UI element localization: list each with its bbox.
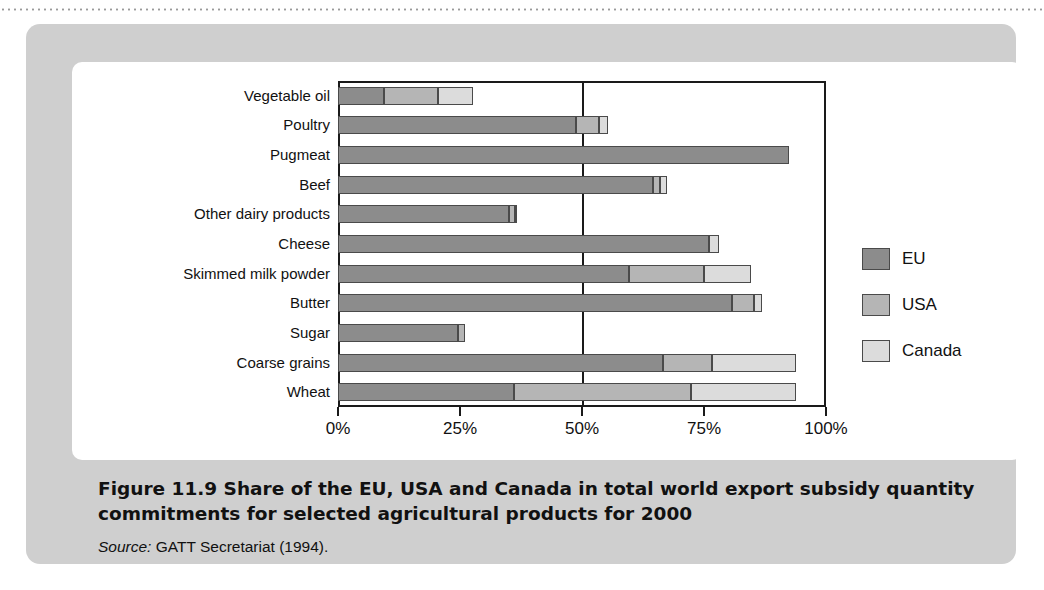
category-label: Pugmeat — [270, 146, 330, 164]
bar-segment-eu — [338, 146, 789, 164]
bar-segment-usa — [458, 324, 465, 342]
bar-row — [338, 294, 762, 312]
bar-row — [338, 265, 751, 283]
bar-segment-canada — [660, 176, 667, 194]
x-tick — [459, 407, 461, 416]
x-tick — [703, 407, 705, 416]
x-tick — [825, 407, 827, 416]
bar-segment-usa — [732, 294, 754, 312]
legend-label: USA — [902, 295, 937, 315]
page-top-dotted-rule — [0, 8, 1044, 11]
bar-segment-usa — [514, 383, 691, 401]
legend-item-usa: USA — [862, 290, 962, 320]
category-label: Sugar — [290, 324, 330, 342]
bar-segment-canada — [515, 205, 517, 223]
legend-swatch-eu — [862, 248, 890, 270]
bar-segment-canada — [599, 116, 608, 134]
category-label: Other dairy products — [194, 205, 330, 223]
source-text: GATT Secretariat (1994). — [151, 538, 328, 555]
bar-segment-eu — [338, 383, 514, 401]
bar-row — [338, 116, 608, 134]
category-label-column: Vegetable oilPoultryPugmeatBeefOther dai… — [72, 81, 330, 407]
category-label: Beef — [299, 176, 330, 194]
bar-row — [338, 235, 719, 253]
x-tick-label: 100% — [804, 419, 847, 439]
x-tick-label: 0% — [326, 419, 351, 439]
bar-segment-eu — [338, 354, 663, 372]
bar-segment-usa — [384, 87, 437, 105]
bar-segment-eu — [338, 324, 458, 342]
bar-segment-eu — [338, 265, 629, 283]
bar-segment-eu — [338, 176, 653, 194]
legend-swatch-usa — [862, 294, 890, 316]
x-tick — [581, 407, 583, 416]
x-tick — [337, 407, 339, 416]
x-tick-label: 50% — [565, 419, 599, 439]
category-label: Coarse grains — [237, 354, 330, 372]
bar-row — [338, 176, 667, 194]
category-label: Butter — [290, 294, 330, 312]
bar-segment-canada — [691, 383, 796, 401]
bar-row — [338, 324, 465, 342]
bar-segment-eu — [338, 116, 576, 134]
caption-source: Source: GATT Secretariat (1994). — [98, 538, 998, 556]
caption-title: Figure 11.9 Share of the EU, USA and Can… — [98, 476, 978, 526]
bar-segment-canada — [438, 87, 474, 105]
bar-row — [338, 205, 517, 223]
category-label: Vegetable oil — [244, 87, 330, 105]
bar-segment-canada — [709, 235, 719, 253]
legend-item-canada: Canada — [862, 336, 962, 366]
bar-segment-eu — [338, 294, 732, 312]
bar-segment-eu — [338, 205, 509, 223]
x-tick-label: 75% — [687, 419, 721, 439]
figure-page: Vegetable oilPoultryPugmeatBeefOther dai… — [0, 0, 1044, 590]
legend-label: EU — [902, 249, 926, 269]
legend-label: Canada — [902, 341, 962, 361]
category-label: Cheese — [278, 235, 330, 253]
legend-swatch-canada — [862, 340, 890, 362]
bar-row — [338, 383, 796, 401]
bar-segment-usa — [663, 354, 712, 372]
bar-segment-eu — [338, 235, 709, 253]
chart-legend: EUUSACanada — [862, 244, 962, 382]
category-label: Wheat — [287, 383, 330, 401]
source-label: Source: — [98, 538, 151, 555]
bar-segment-usa — [576, 116, 599, 134]
x-tick-label: 25% — [443, 419, 477, 439]
bar-segment-usa — [653, 176, 660, 194]
bar-row — [338, 354, 796, 372]
bar-segment-eu — [338, 87, 384, 105]
bar-row — [338, 87, 473, 105]
legend-item-eu: EU — [862, 244, 962, 274]
bar-row — [338, 146, 789, 164]
bar-chart: Vegetable oilPoultryPugmeatBeefOther dai… — [72, 62, 1022, 460]
figure-caption: Figure 11.9 Share of the EU, USA and Can… — [98, 476, 998, 556]
category-label: Poultry — [283, 116, 330, 134]
category-label: Skimmed milk powder — [183, 265, 330, 283]
chart-card: Vegetable oilPoultryPugmeatBeefOther dai… — [72, 62, 1022, 460]
plot-area: 0%25%50%75%100% — [338, 81, 826, 407]
bar-segment-usa — [629, 265, 704, 283]
bar-segment-canada — [704, 265, 751, 283]
bar-segment-canada — [754, 294, 762, 312]
bar-segment-canada — [712, 354, 796, 372]
figure-panel: Vegetable oilPoultryPugmeatBeefOther dai… — [26, 24, 1016, 564]
